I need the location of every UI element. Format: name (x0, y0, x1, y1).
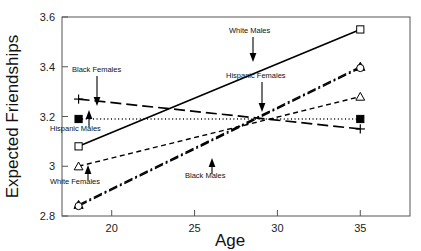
series-marker-black-females (356, 124, 365, 133)
series-marker-hispanic-males (75, 115, 82, 122)
annotation-arrow-head-hispanic-females (259, 103, 266, 112)
x-axis-tick-label: 20 (106, 222, 118, 234)
x-axis-tick-label: 25 (188, 222, 200, 234)
annotation-arrow-head-white-males (250, 53, 257, 62)
axes-layer: 2.833.23.43.620253035 (40, 11, 410, 234)
annotation-arrow-head-black-males (209, 158, 216, 167)
series-marker-black-males (357, 64, 364, 71)
y-axis-tick-label: 3.4 (40, 61, 55, 73)
y-axis-tick-label: 2.8 (40, 210, 55, 222)
y-axis-tick-label: 3.2 (40, 111, 55, 123)
annotation-label-hispanic-males: Hispanic Males (50, 124, 101, 133)
y-axis-title: Expected Friendships (3, 35, 22, 198)
annotation-white-males: White Males (229, 26, 271, 62)
x-axis-title: Age (215, 231, 245, 250)
series-marker-white-males (75, 143, 82, 150)
series-line-white-females (79, 97, 361, 167)
annotation-hispanic-females: Hispanic Females (226, 71, 286, 112)
series-marker-black-males (75, 202, 82, 209)
annotation-label-white-females: White Females (50, 177, 100, 186)
x-axis-tick-label: 35 (354, 222, 366, 234)
annotation-arrow-head-white-females (85, 165, 92, 174)
series-line-black-females (79, 99, 361, 129)
series-marker-white-males (357, 26, 364, 33)
series-marker-hispanic-males (357, 115, 364, 122)
annotation-label-black-males: Black Males (185, 171, 226, 180)
y-axis-tick-label: 3.6 (40, 11, 55, 23)
annotation-label-white-males: White Males (229, 26, 271, 35)
series-marker-white-females (356, 92, 365, 100)
annotation-label-black-females: Black Females (72, 65, 121, 74)
annotation-label-hispanic-females: Hispanic Females (226, 71, 286, 80)
y-axis-tick-label: 3 (49, 160, 55, 172)
x-axis-tick-label: 30 (271, 222, 283, 234)
series-marker-black-females (74, 94, 83, 103)
annotation-black-males: Black Males (185, 158, 226, 180)
data-markers-layer (74, 26, 365, 210)
expected-friendships-line-chart: 2.833.23.43.620253035 Black FemalesHispa… (0, 0, 421, 251)
annotations-layer: Black FemalesHispanic MalesWhite Females… (50, 26, 286, 186)
chart-figure: 2.833.23.43.620253035 Black FemalesHispa… (0, 0, 421, 251)
annotation-arrow-head-hispanic-males (86, 110, 93, 119)
